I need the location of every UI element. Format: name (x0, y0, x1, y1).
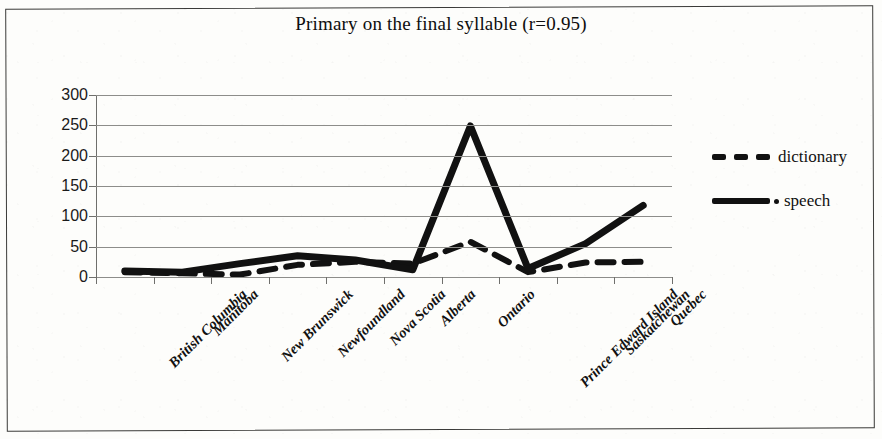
dashed-line-icon (712, 154, 770, 160)
y-axis-tick (89, 277, 96, 278)
x-axis-tick (154, 277, 155, 284)
y-axis-tick-label: 100 (61, 207, 88, 225)
y-axis-tick (89, 186, 96, 187)
x-axis-tick (614, 277, 615, 284)
legend-label-dictionary: dictionary (778, 147, 847, 167)
gridline (96, 156, 672, 157)
gridline (96, 216, 672, 217)
y-axis-tick (89, 216, 96, 217)
chart-title: Primary on the final syllable (r=0.95) (0, 13, 882, 35)
x-axis-tick (442, 277, 443, 284)
y-axis-tick-label: 200 (61, 147, 88, 165)
x-axis-tick (96, 277, 97, 284)
x-axis-tick (269, 277, 270, 284)
x-axis-label-ontario: Ontario (494, 286, 539, 331)
y-axis-tick-label: 250 (61, 116, 88, 134)
legend-item-dictionary: dictionary (712, 148, 877, 192)
dot-marker-icon (774, 199, 779, 204)
solid-line-icon (712, 198, 770, 204)
x-axis-tick (499, 277, 500, 284)
x-axis-tick (384, 277, 385, 284)
y-axis-tick-label: 150 (61, 177, 88, 195)
x-axis-tick (211, 277, 212, 284)
y-axis-tick-label: 50 (70, 238, 88, 256)
x-axis-tick (672, 277, 673, 284)
y-axis-labels: 050100150200250300 (34, 95, 88, 277)
plot-area (96, 95, 672, 277)
series-line-speech (125, 126, 643, 272)
legend-label-speech: speech (784, 191, 830, 211)
y-axis-tick-label: 300 (61, 86, 88, 104)
y-axis-tick (89, 125, 96, 126)
y-axis-tick (89, 156, 96, 157)
x-axis-tick (557, 277, 558, 284)
scanned-page-background: Primary on the final syllable (r=0.95) 0… (0, 0, 882, 439)
chart-legend: dictionary speech (712, 148, 877, 236)
gridline (96, 95, 672, 96)
gridline (96, 247, 672, 248)
y-axis-tick (89, 247, 96, 248)
legend-item-speech: speech (712, 192, 877, 236)
y-axis-tick-label: 0 (79, 268, 88, 286)
gridline (96, 186, 672, 187)
gridline (96, 125, 672, 126)
y-axis-tick (89, 95, 96, 96)
x-axis-tick (326, 277, 327, 284)
line-chart: Primary on the final syllable (r=0.95) 0… (0, 0, 882, 439)
